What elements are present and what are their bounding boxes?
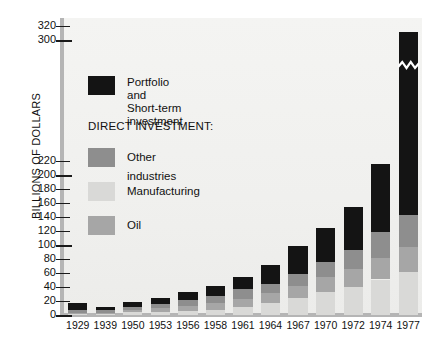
- y-tick-label-220: 220: [30, 155, 56, 166]
- bar-1958: [206, 0, 225, 315]
- y-tick-label-160: 160: [30, 197, 56, 208]
- bar-segment-1970-manufacturing: [316, 292, 335, 315]
- bar-segment-1961-other-industries: [233, 289, 252, 298]
- bar-segment-1967-portfolio-and-short-term-investment: [288, 246, 307, 274]
- legend-swatch-manufacturing: [88, 182, 115, 201]
- bar-segment-1950-manufacturing: [123, 312, 142, 315]
- bar-segment-1958-other-industries: [206, 296, 225, 303]
- bar-segment-1964-portfolio-and-short-term-investment: [261, 265, 280, 284]
- bar-segment-1929-oil: [68, 313, 87, 314]
- legend-label-oil: Oil: [127, 216, 141, 235]
- y-tick-label-180: 180: [30, 183, 56, 194]
- y-tick-label-60: 60: [30, 267, 56, 278]
- bar-segment-1950-portfolio-and-short-term-investment: [123, 302, 142, 307]
- bar-segment-1964-manufacturing: [261, 303, 280, 315]
- bar-segment-1953-oil: [151, 308, 170, 311]
- y-tick-0: [56, 315, 72, 317]
- bar-segment-1972-oil: [344, 269, 363, 287]
- bar-segment-1939-portfolio-and-short-term-investment: [96, 307, 115, 310]
- bar-1967: [288, 0, 307, 315]
- bar-segment-1974-manufacturing: [371, 280, 390, 315]
- legend-swatch-portfolio: [88, 76, 115, 95]
- bar-segment-1970-other-industries: [316, 262, 335, 277]
- legend-swatch-oil: [88, 216, 115, 235]
- bar-1974: [371, 0, 390, 315]
- bar-segment-1977-portfolio-and-short-term-investment: [399, 32, 418, 215]
- bar-segment-1953-manufacturing: [151, 312, 170, 315]
- bar-1956: [178, 0, 197, 315]
- bar-1977: [399, 0, 418, 315]
- bar-segment-1958-portfolio-and-short-term-investment: [206, 286, 225, 296]
- bar-segment-1964-other-industries: [261, 284, 280, 293]
- bar-segment-1970-oil: [316, 277, 335, 292]
- bar-segment-1961-portfolio-and-short-term-investment: [233, 277, 252, 290]
- y-tick-label-200: 200: [30, 169, 56, 180]
- bar-segment-1977-oil: [399, 247, 418, 272]
- bar-segment-1972-manufacturing: [344, 287, 363, 315]
- legend-header-direct-investment: DIRECT INVESTMENT:: [88, 120, 213, 132]
- y-tick-label-40: 40: [30, 281, 56, 292]
- bar-1929: [68, 0, 87, 315]
- bar-1964: [261, 0, 280, 315]
- y-tick-label-320: 320: [30, 20, 56, 31]
- legend-swatch-other-industries: [88, 148, 115, 167]
- bar-segment-1939-manufacturing: [96, 314, 115, 315]
- bar-1972: [344, 0, 363, 315]
- bar-segment-1956-other-industries: [178, 300, 197, 306]
- bar-segment-1967-other-industries: [288, 274, 307, 286]
- bar-segment-1974-other-industries: [371, 232, 390, 258]
- y-tick-label-100: 100: [30, 239, 56, 250]
- bar-segment-1950-oil: [123, 310, 142, 312]
- bar-segment-1953-portfolio-and-short-term-investment: [151, 298, 170, 304]
- y-tick-label-140: 140: [30, 211, 56, 222]
- bar-1961: [233, 0, 252, 315]
- legend-label-other-industries: Other industries: [127, 148, 176, 186]
- bar-segment-1967-manufacturing: [288, 298, 307, 315]
- bar-segment-1939-oil: [96, 313, 115, 314]
- legend-item-manufacturing: Manufacturing: [88, 182, 200, 201]
- bar-segment-1967-oil: [288, 286, 307, 298]
- bar-segment-1950-other-industries: [123, 307, 142, 310]
- bar-segment-1958-manufacturing: [206, 310, 225, 315]
- x-tick-label-1977: 1977: [392, 319, 424, 331]
- y-tick-label-0: 0: [30, 309, 56, 320]
- bar-segment-1956-portfolio-and-short-term-investment: [178, 292, 197, 300]
- bar-segment-1974-portfolio-and-short-term-investment: [371, 164, 390, 232]
- bar-segment-1972-portfolio-and-short-term-investment: [344, 207, 363, 250]
- bar-segment-1956-oil: [178, 306, 197, 311]
- bar-segment-1974-oil: [371, 258, 390, 280]
- bar-segment-1977-manufacturing: [399, 272, 418, 315]
- legend-item-other-industries: Other industries: [88, 148, 176, 186]
- y-tick-label-20: 20: [30, 295, 56, 306]
- bar-segment-1958-oil: [206, 303, 225, 309]
- bar-segment-1929-portfolio-and-short-term-investment: [68, 303, 87, 310]
- bar-segment-1929-other-industries: [68, 310, 87, 313]
- y-tick-label-80: 80: [30, 253, 56, 264]
- bar-segment-1972-other-industries: [344, 250, 363, 269]
- bar-segment-1953-other-industries: [151, 304, 170, 308]
- bar-segment-1939-other-industries: [96, 310, 115, 313]
- legend-item-oil: Oil: [88, 216, 141, 235]
- y-tick-label-120: 120: [30, 225, 56, 236]
- legend-label-manufacturing: Manufacturing: [127, 182, 200, 201]
- y-tick-label-300: 300: [30, 34, 56, 45]
- bar-segment-1961-oil: [233, 299, 252, 308]
- bar-1970: [316, 0, 335, 315]
- bar-segment-1964-oil: [261, 293, 280, 303]
- bar-segment-1970-portfolio-and-short-term-investment: [316, 228, 335, 263]
- chart-root: BILLIONS OF DOLLARS 02040608010012014016…: [0, 0, 433, 351]
- bar-segment-1961-manufacturing: [233, 307, 252, 315]
- bar-segment-1956-manufacturing: [178, 311, 197, 315]
- bar-segment-1977-other-industries: [399, 215, 418, 247]
